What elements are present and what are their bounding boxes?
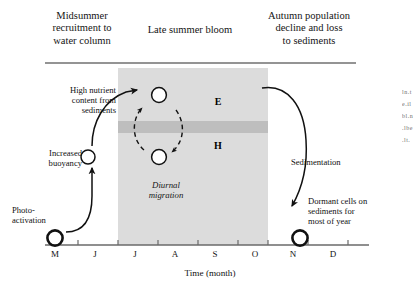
label-diurnal-migration: Diurnal migration bbox=[128, 180, 204, 201]
phase-label-autumn-decline: Autumn population decline and loss to se… bbox=[248, 10, 370, 47]
axis-title-time: Time (month) bbox=[150, 268, 270, 279]
bloom-shaded-region bbox=[118, 68, 268, 245]
figure-canvas: Midsummer recruitment to water column La… bbox=[0, 0, 413, 293]
phase-label-late-summer-bloom: Late summer bloom bbox=[134, 24, 246, 36]
axis-tick-label-j2: J bbox=[126, 249, 144, 259]
axis-tick-label-s: S bbox=[206, 249, 224, 259]
axis-tick-label-j1: J bbox=[86, 249, 104, 259]
sedimentation-arrow bbox=[262, 88, 306, 206]
cell-buoyant-recruit bbox=[81, 150, 95, 164]
axis-tick-label-d: D bbox=[324, 249, 342, 259]
zone-label-hypolimnion: H bbox=[210, 140, 226, 152]
axis-tick-label-o: O bbox=[246, 249, 264, 259]
annotation-high-nutrient: High nutrient content from sediments bbox=[42, 85, 116, 115]
annotation-sedimentation: Sedimentation bbox=[291, 157, 371, 167]
axis-tick-label-n: N bbox=[284, 249, 302, 259]
cell-dormant-winter bbox=[292, 230, 307, 245]
axis-tick-label-m1: M bbox=[46, 249, 64, 259]
zone-label-epilimnion: E bbox=[210, 96, 226, 108]
annotation-increased-buoyancy: Increased buoyancy bbox=[26, 148, 82, 168]
thermocline-band bbox=[118, 121, 268, 133]
phase-label-midsummer: Midsummer recruitment to water column bbox=[30, 10, 134, 47]
cell-dormant-spring bbox=[47, 230, 62, 245]
axis-tick-label-a: A bbox=[166, 249, 184, 259]
cell-hypolimnion bbox=[152, 150, 167, 165]
cropped-margin-text: l n . t e . i l b l . n . l b e . l t . bbox=[402, 86, 413, 284]
cell-epilimnion bbox=[152, 88, 167, 103]
annotation-dormant-cells: Dormant cells on sediments for most of y… bbox=[308, 196, 390, 226]
annotation-photo-activation: Photo- activation bbox=[12, 205, 74, 225]
